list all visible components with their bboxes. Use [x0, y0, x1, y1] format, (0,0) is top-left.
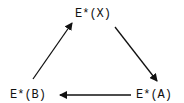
- arrow-x-to-a: [115, 27, 157, 81]
- node-e-star-x: E*(X): [75, 7, 111, 21]
- arrow-b-to-x: [33, 23, 72, 79]
- node-e-star-a: E*(A): [136, 88, 172, 102]
- node-e-star-b: E*(B): [10, 88, 46, 102]
